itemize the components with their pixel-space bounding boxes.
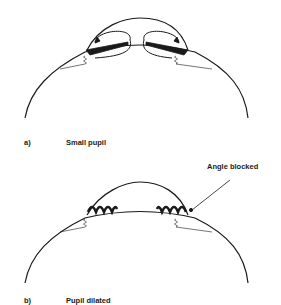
flow-arrow-right xyxy=(144,31,179,42)
angle-blocked-pointer xyxy=(192,180,230,210)
iris-left-bunched xyxy=(88,207,117,212)
angle-blocked-label: Angle blocked xyxy=(207,162,258,171)
panel-a-caption: Small pupil xyxy=(66,138,106,147)
panel-b-caption: Pupil dilated xyxy=(66,296,111,305)
panel-b-letter: b) xyxy=(24,296,31,305)
angle-blocked-dot xyxy=(189,208,192,211)
eye-globe-outline xyxy=(25,212,248,284)
iris-right xyxy=(146,42,188,55)
eye-globe-outline xyxy=(25,45,248,118)
panel-a-letter: a) xyxy=(24,138,31,147)
arrowhead-right xyxy=(174,37,179,43)
panel-a-small-pupil xyxy=(25,18,248,118)
panel-b-pupil-dilated xyxy=(25,180,248,283)
ciliary-right xyxy=(175,219,213,232)
iris-right-bunched xyxy=(157,207,186,212)
